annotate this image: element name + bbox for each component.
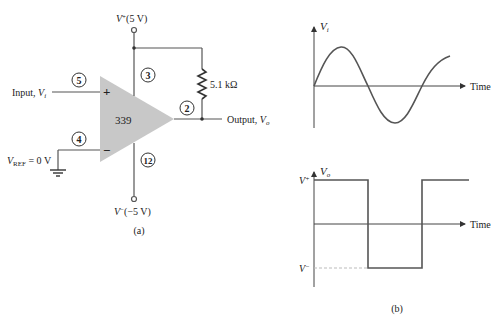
input-label: Input, Vi — [12, 87, 46, 100]
vi-axis-label: Vi — [320, 20, 329, 34]
vpos-terminal — [132, 28, 137, 33]
pin-2-label: 2 — [185, 103, 190, 114]
input-waveform-plot: Vi Time — [314, 20, 491, 128]
output-waveform-plot: Vo V+ V− Time — [299, 165, 491, 287]
vo-axis-label: Vo — [320, 165, 331, 179]
caption-a: (a) — [133, 225, 144, 237]
sine-wave — [314, 47, 450, 123]
vi-time-label: Time — [470, 81, 491, 92]
vneg-level-label: V− — [299, 263, 310, 274]
resistor — [198, 69, 206, 99]
resistor-label: 5.1 kΩ — [210, 79, 237, 90]
caption-b: (b) — [391, 303, 403, 315]
pin-12-label: 12 — [144, 156, 154, 166]
vneg-supply-label: V−(−5 V) — [114, 206, 151, 218]
output-label: Output, Vo — [227, 114, 270, 127]
ground-icon — [50, 170, 66, 176]
opamp-triangle — [100, 76, 174, 162]
comparator-circuit — [50, 28, 222, 202]
pin-3-label: 3 — [146, 70, 151, 81]
diagram-canvas: 339 + − 5 4 3 12 2 V+(5 V) V−(−5 V) Inpu… — [0, 0, 503, 325]
pin-5-label: 5 — [77, 75, 82, 86]
junction-dot — [132, 46, 136, 50]
vref-label: VREF = 0 V — [7, 155, 52, 168]
vpos-supply-label: V+(5 V) — [116, 13, 147, 25]
vpos-level-label: V+ — [299, 175, 310, 186]
output-junction-dot — [200, 117, 204, 121]
vneg-terminal — [132, 197, 137, 202]
vo-time-label: Time — [470, 219, 491, 230]
minus-sign: − — [103, 143, 110, 158]
pin-4-label: 4 — [77, 134, 82, 145]
chip-label: 339 — [115, 114, 132, 126]
plus-sign: + — [103, 84, 110, 99]
